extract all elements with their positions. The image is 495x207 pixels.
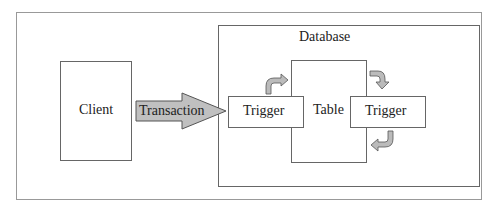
- transaction-label: Transaction: [139, 103, 205, 119]
- curved-arrow-back-icon: [371, 131, 393, 151]
- arrows-layer: [0, 0, 495, 207]
- curved-arrow-down-right-icon: [370, 71, 389, 89]
- curved-arrow-up-icon: [266, 74, 288, 94]
